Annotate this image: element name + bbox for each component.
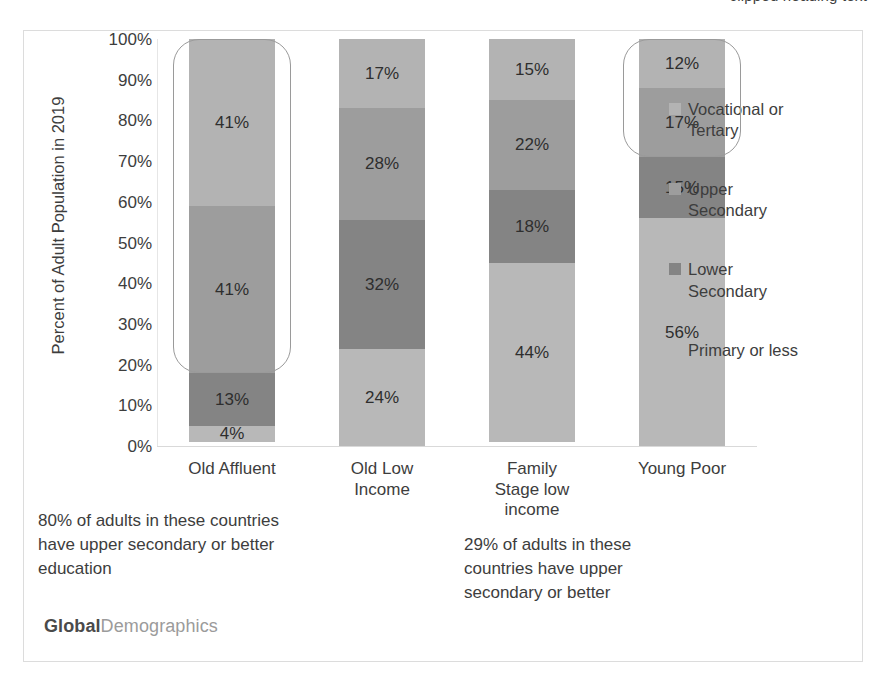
bar-segment-value-label: 28% (365, 155, 399, 172)
legend-label: LowerSecondary (688, 259, 767, 301)
legend-label-line: Primary or less (688, 340, 798, 361)
legend-color-swatch-icon (669, 344, 681, 356)
y-axis-tick: 50% (84, 234, 152, 251)
legend-color-swatch-icon (669, 103, 681, 115)
y-axis-title: Percent of Adult Population in 2019 (49, 61, 68, 391)
legend-label-line: Vocational or (688, 99, 783, 120)
bar-segment-value-label: 13% (215, 391, 249, 408)
bar-segment[interactable]: 4% (189, 426, 275, 442)
bar-segment-value-label: 41% (215, 281, 249, 298)
y-axis-tick: 80% (84, 112, 152, 129)
bar-segment-value-label: 32% (365, 276, 399, 293)
legend-label-line: Secondary (688, 281, 767, 302)
x-axis-line (157, 446, 757, 447)
annotation-line: 80% of adults in these countries (38, 509, 438, 533)
y-axis-tick: 0% (84, 438, 152, 455)
annotation-line: education (38, 557, 438, 581)
legend-item[interactable]: UpperSecondary (669, 179, 859, 221)
brand-footer: GlobalDemographics (44, 616, 218, 637)
bar-segment[interactable]: 17% (339, 39, 425, 108)
bar-segment-value-label: 15% (515, 61, 549, 78)
bar-segment[interactable]: 28% (339, 108, 425, 221)
y-axis-tick-labels: 100%90%80%70%60%50%40%30%20%10%0% (84, 39, 152, 447)
legend-label: Vocational orTertary (688, 99, 783, 141)
y-axis-tick: 40% (84, 275, 152, 292)
annotation-line: 29% of adults in these (464, 533, 764, 557)
bar-column: 41%41%13%4% (157, 39, 307, 446)
legend-label-line: Tertary (688, 120, 783, 141)
legend-label-line: Upper (688, 179, 767, 200)
chart-annotations: 80% of adults in these countrieshave upp… (24, 509, 864, 609)
y-axis-tick: 10% (84, 397, 152, 414)
x-axis-category-label-line: Stage low (457, 480, 607, 501)
annotation-line: have upper secondary or better (38, 533, 438, 557)
x-axis-category-label-line: Old Low (307, 459, 457, 480)
top-clipped-caption-strip: clipped heading text (0, 0, 885, 22)
brand-name-light: Demographics (101, 616, 218, 636)
bar-group: 41%41%13%4%17%28%32%24%15%22%18%44%12%17… (157, 39, 757, 446)
bar-segment[interactable]: 12% (639, 39, 725, 88)
annot-young-poor: 29% of adults in thesecountries have upp… (464, 533, 764, 605)
x-axis-category-label-line: Young Poor (607, 459, 757, 480)
bar-column: 17%28%32%24% (307, 39, 457, 446)
chart-frame: Percent of Adult Population in 2019 100%… (23, 30, 863, 662)
plot-region: Percent of Adult Population in 2019 100%… (24, 31, 864, 471)
y-axis-tick: 60% (84, 193, 152, 210)
annotation-line: countries have upper (464, 557, 764, 581)
bar-segment[interactable]: 44% (489, 263, 575, 442)
y-axis-tick: 30% (84, 315, 152, 332)
x-axis-category-label-line: Income (307, 480, 457, 501)
bar-segment[interactable]: 41% (189, 39, 275, 206)
bar-segment[interactable]: 24% (339, 349, 425, 446)
bar-segment-value-label: 41% (215, 114, 249, 131)
y-axis-tick: 100% (84, 31, 152, 48)
bar-segment[interactable]: 32% (339, 220, 425, 349)
legend-item[interactable]: Vocational orTertary (669, 99, 859, 141)
x-axis-category-label-line: Old Affluent (157, 459, 307, 480)
bar-segment[interactable]: 41% (189, 206, 275, 373)
legend-item[interactable]: Primary or less (669, 340, 859, 361)
bar-segment-value-label: 17% (365, 65, 399, 82)
bar-segment[interactable]: 15% (489, 39, 575, 100)
legend-item[interactable]: LowerSecondary (669, 259, 859, 301)
bar-segment-value-label: 18% (515, 218, 549, 235)
bar-segment-value-label: 12% (665, 55, 699, 72)
y-axis-tick: 70% (84, 153, 152, 170)
bar-stack[interactable]: 41%41%13%4% (189, 39, 275, 446)
bar-segment-value-label: 22% (515, 136, 549, 153)
bar-segment-value-label: 44% (515, 344, 549, 361)
y-axis-tick: 20% (84, 356, 152, 373)
legend-color-swatch-icon (669, 183, 681, 195)
top-clipped-caption-text: clipped heading text (730, 0, 867, 4)
legend-label: Primary or less (688, 340, 798, 361)
bar-segment[interactable]: 13% (189, 373, 275, 426)
legend-label-line: Lower (688, 259, 767, 280)
annotation-line: secondary or better (464, 581, 764, 605)
annot-old-affluent: 80% of adults in these countrieshave upp… (38, 509, 438, 581)
x-axis-category-label-line: Family (457, 459, 607, 480)
bar-segment-value-label: 4% (220, 425, 245, 442)
legend-label-line: Secondary (688, 200, 767, 221)
legend-label: UpperSecondary (688, 179, 767, 221)
bar-segment[interactable]: 22% (489, 100, 575, 190)
bar-stack[interactable]: 17%28%32%24% (339, 39, 425, 446)
bar-segment-value-label: 24% (365, 389, 399, 406)
bar-stack[interactable]: 15%22%18%44% (489, 39, 575, 446)
brand-name-strong: Global (44, 616, 101, 636)
chart-legend: Vocational orTertaryUpperSecondaryLowerS… (669, 99, 859, 399)
legend-color-swatch-icon (669, 263, 681, 275)
bar-segment[interactable]: 18% (489, 190, 575, 263)
bar-column: 15%22%18%44% (457, 39, 607, 446)
y-axis-tick: 90% (84, 71, 152, 88)
